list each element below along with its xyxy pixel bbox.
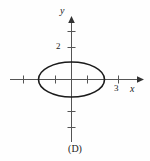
x-axis-label: x xyxy=(130,84,134,94)
figure-container: y x 2 3 (D) xyxy=(0,0,150,161)
x-axis-arrowhead xyxy=(137,76,144,83)
y-tick-label-2: 2 xyxy=(56,42,61,51)
y-axis-arrowhead xyxy=(68,16,75,23)
coordinate-plot xyxy=(0,0,150,161)
y-axis-label: y xyxy=(60,6,64,16)
figure-caption: (D) xyxy=(0,144,150,154)
x-tick-label-3: 3 xyxy=(114,84,119,93)
